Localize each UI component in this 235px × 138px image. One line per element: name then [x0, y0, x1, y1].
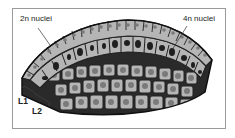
- leader-2n: [38, 28, 50, 45]
- label-4n-nuclei: 4n nuclei: [183, 14, 215, 23]
- label-l1: L1: [18, 96, 28, 106]
- label-2n-nuclei: 2n nuclei: [20, 14, 52, 23]
- label-l2: L2: [32, 106, 42, 116]
